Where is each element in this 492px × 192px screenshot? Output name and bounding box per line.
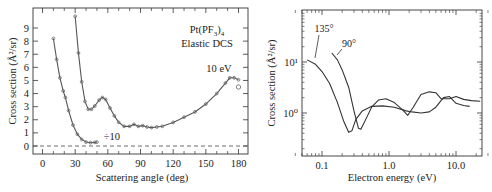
elastic-dcs-label: Elastic DCS bbox=[181, 38, 233, 49]
x-tick-label: 10.0 bbox=[447, 160, 465, 171]
series-135 bbox=[307, 60, 470, 132]
series-90 bbox=[332, 53, 480, 129]
label-90-deg: 90° bbox=[342, 38, 356, 49]
left-x-axis-label: Scattering angle (deg) bbox=[96, 172, 189, 184]
y-tick-label: 1 bbox=[24, 127, 29, 138]
y-tick-label: 7 bbox=[24, 49, 29, 60]
right-series bbox=[307, 53, 480, 132]
y-tick-label: 10¹ bbox=[284, 57, 298, 68]
right-x-axis-label: Electron energy (eV) bbox=[348, 172, 437, 184]
arrow-135 bbox=[315, 35, 319, 58]
right-x-ticks: 0.11.010.0 bbox=[295, 10, 488, 171]
x-tick-label: 120 bbox=[165, 158, 181, 169]
right-chart: 0.11.010.0 10⁰10¹ 135° 90° Electron ener… bbox=[266, 10, 488, 184]
x-tick-label: 1.0 bbox=[382, 160, 395, 171]
x-tick-label: 0 bbox=[40, 158, 45, 169]
right-y-ticks: 10⁰10¹ bbox=[283, 13, 482, 148]
series-line bbox=[53, 38, 97, 142]
x-tick-label: 180 bbox=[231, 158, 247, 169]
energy-label: 10 eV bbox=[206, 63, 232, 74]
x-tick-label: 150 bbox=[198, 158, 214, 169]
x-tick-label: 0.1 bbox=[315, 160, 328, 171]
arrow-90 bbox=[337, 49, 342, 55]
y-tick-label: 9 bbox=[24, 23, 29, 34]
x-tick-label: 60 bbox=[103, 158, 114, 169]
scale-factor-label: ÷10 bbox=[104, 131, 120, 142]
x-tick-label: 90 bbox=[135, 158, 146, 169]
y-tick-label: 0 bbox=[24, 141, 29, 152]
left-chart: 0306090120150180 0123456789 Pt(PF3)4 Ela… bbox=[7, 8, 248, 184]
x-tick-label: 30 bbox=[70, 158, 81, 169]
y-tick-label: 6 bbox=[24, 62, 29, 73]
right-y-axis-label: Cross section (Å²/sr) bbox=[266, 39, 278, 127]
molecule-label: Pt(PF3)4 bbox=[190, 24, 225, 38]
y-tick-label: 5 bbox=[24, 75, 29, 86]
y-tick-label: 8 bbox=[24, 36, 29, 47]
left-y-axis-label: Cross section (Å²/sr) bbox=[7, 37, 19, 125]
label-135-deg: 135° bbox=[315, 23, 334, 34]
y-tick-label: 2 bbox=[24, 114, 29, 125]
figure: 0306090120150180 0123456789 Pt(PF3)4 Ela… bbox=[0, 0, 492, 192]
y-tick-label: 3 bbox=[24, 101, 29, 112]
y-tick-label: 4 bbox=[24, 88, 30, 99]
y-tick-label: 10⁰ bbox=[283, 108, 298, 119]
